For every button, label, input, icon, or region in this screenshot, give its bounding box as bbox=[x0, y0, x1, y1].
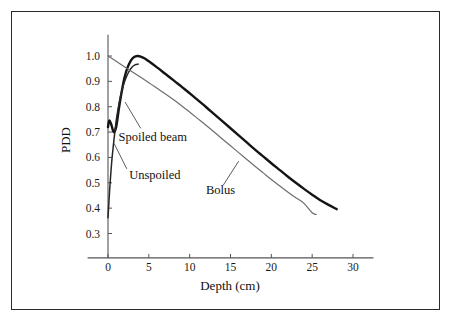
x-tick-label: 5 bbox=[146, 261, 152, 273]
annotation-label-spoiled-beam: Spoiled beam bbox=[119, 130, 188, 144]
y-tick-label: 0.4 bbox=[86, 202, 101, 214]
x-tick-label: 25 bbox=[306, 261, 318, 273]
y-tick-label: 0.9 bbox=[86, 75, 101, 87]
leader-line-bolus bbox=[223, 161, 239, 185]
annotation-label-unspoiled: Unspoiled bbox=[129, 168, 181, 182]
y-tick-label: 0.7 bbox=[86, 126, 101, 138]
y-tick-label: 0.3 bbox=[86, 228, 101, 240]
x-tick-label: 15 bbox=[225, 261, 237, 273]
leader-line-unspoiled bbox=[114, 143, 127, 168]
x-tick-label: 0 bbox=[105, 261, 111, 273]
leader-line-spoiled-beam bbox=[125, 102, 141, 128]
y-tick-label: 1.0 bbox=[86, 50, 101, 62]
x-tick-label: 20 bbox=[266, 261, 278, 273]
x-tick-label: 10 bbox=[184, 261, 196, 273]
x-axis-title: Depth (cm) bbox=[200, 278, 260, 293]
x-axis-ticks: 051015202530 bbox=[105, 254, 359, 273]
pdd-depth-chart: 051015202530 0.30.40.50.60.70.80.91.0 Sp… bbox=[0, 0, 451, 321]
x-tick-label: 30 bbox=[347, 261, 359, 273]
y-tick-label: 0.8 bbox=[86, 101, 101, 113]
y-axis-title: PDD bbox=[58, 127, 73, 153]
y-tick-label: 0.5 bbox=[86, 177, 101, 189]
annotations-group: Spoiled beamUnspoiledBolus bbox=[114, 102, 239, 197]
annotation-label-bolus: Bolus bbox=[206, 183, 235, 197]
y-tick-label: 0.6 bbox=[86, 151, 101, 163]
